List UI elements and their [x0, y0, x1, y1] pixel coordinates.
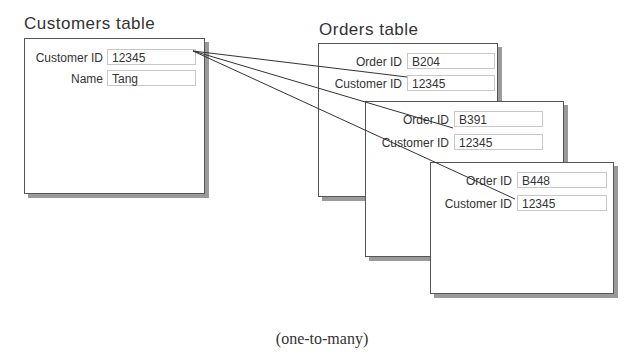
order-customer-id-label: Customer ID — [366, 136, 449, 150]
order-id-field[interactable]: B391 — [454, 111, 543, 127]
order-id-field[interactable]: B204 — [407, 53, 495, 69]
order-record-3: Order ID B448 Customer ID 12345 — [430, 162, 614, 294]
name-row: Name Tang — [25, 70, 204, 87]
name-field[interactable]: Tang — [107, 70, 196, 86]
order-id-row: Order ID B391 — [366, 111, 563, 128]
order-customer-id-field[interactable]: 12345 — [517, 195, 607, 211]
order-id-field[interactable]: B448 — [517, 172, 607, 188]
order-id-row: Order ID B204 — [319, 53, 497, 70]
customer-id-label: Customer ID — [25, 51, 103, 65]
order-customer-id-label: Customer ID — [431, 197, 512, 211]
order-id-label: Order ID — [319, 55, 402, 69]
order-id-label: Order ID — [431, 174, 512, 188]
order-customer-id-field[interactable]: 12345 — [454, 134, 543, 150]
customer-id-row: Customer ID 12345 — [25, 49, 204, 66]
relationship-caption: (one-to-many) — [0, 330, 644, 348]
order-id-row: Order ID B448 — [431, 172, 613, 189]
order-customer-id-label: Customer ID — [319, 77, 402, 91]
order-customer-id-row: Customer ID 12345 — [319, 75, 497, 92]
order-id-label: Order ID — [366, 113, 449, 127]
customers-table-title: Customers table — [24, 14, 155, 34]
name-label: Name — [25, 72, 103, 86]
order-customer-id-row: Customer ID 12345 — [431, 195, 613, 212]
order-customer-id-field[interactable]: 12345 — [407, 75, 495, 91]
orders-table-title: Orders table — [319, 20, 419, 40]
order-customer-id-row: Customer ID 12345 — [366, 134, 563, 151]
customers-table-record: Customer ID 12345 Name Tang — [24, 38, 205, 194]
customer-id-field[interactable]: 12345 — [107, 49, 196, 65]
